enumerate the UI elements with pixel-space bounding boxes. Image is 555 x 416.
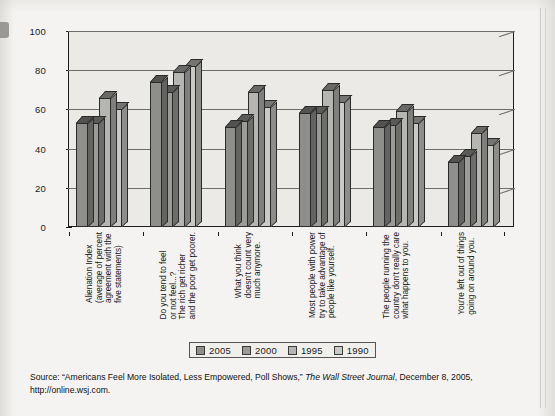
bar-front-face bbox=[299, 113, 311, 227]
bar-side-face bbox=[494, 139, 500, 227]
x-axis-label-line: what happens to you. bbox=[402, 232, 412, 319]
x-axis-label-line: What you think bbox=[234, 232, 244, 298]
bar bbox=[225, 127, 237, 227]
bar-side-face bbox=[459, 157, 465, 227]
bar-group bbox=[299, 31, 345, 227]
bar-side-face bbox=[322, 108, 328, 227]
bar-side-face bbox=[185, 67, 191, 227]
x-axis-tick bbox=[292, 232, 293, 236]
source-publication: The Wall Street Journal bbox=[305, 372, 395, 382]
bar-front-face bbox=[225, 127, 237, 227]
source-url: http://online.wsj.com. bbox=[30, 385, 110, 395]
x-axis-label-line: Alienation Index bbox=[85, 232, 95, 303]
bar-group bbox=[448, 31, 494, 227]
x-axis-label-line: five statements) bbox=[114, 232, 124, 303]
x-axis-category-label: The people running thecountry don't real… bbox=[382, 232, 411, 319]
chart-legend: 2005200019951990 bbox=[189, 342, 376, 358]
y-axis-tick-label: 0 bbox=[41, 222, 46, 233]
legend-swatch bbox=[196, 346, 205, 355]
y-axis-tick-label: 100 bbox=[30, 26, 46, 37]
page-right-rule bbox=[540, 8, 541, 408]
bar-side-face bbox=[271, 102, 277, 227]
bar-side-face bbox=[196, 61, 202, 227]
page-edge-mark bbox=[0, 22, 9, 38]
x-axis-label-line: (average of percent bbox=[95, 232, 105, 303]
bar-group bbox=[150, 31, 196, 227]
x-axis-label-line: Most people with power bbox=[308, 232, 318, 318]
bar-side-face bbox=[173, 86, 179, 227]
legend-swatch bbox=[242, 346, 251, 355]
plot-area bbox=[68, 31, 514, 227]
x-axis-category-label: Alienation Index(average of percentagree… bbox=[85, 232, 123, 303]
x-axis-tick bbox=[366, 232, 367, 236]
bar-group bbox=[76, 31, 122, 227]
scanned-page: 020406080100 Alienation Index(average of… bbox=[0, 0, 555, 416]
x-axis-tick bbox=[69, 232, 70, 236]
source-suffix: , December 8, 2005, bbox=[395, 372, 473, 382]
y-axis-tick-label: 20 bbox=[35, 182, 46, 193]
x-axis-category-label: Do you tend to feelor not feel...?The ri… bbox=[159, 232, 197, 319]
bar-side-face bbox=[482, 128, 488, 227]
bar-front-face bbox=[373, 127, 385, 227]
x-axis-category-label: What you thinkdoesn't count verymuch any… bbox=[234, 232, 263, 298]
legend-item: 2000 bbox=[242, 345, 277, 356]
legend-label: 1995 bbox=[301, 345, 323, 356]
bar-side-face bbox=[248, 116, 254, 227]
bar bbox=[448, 162, 460, 227]
x-axis-tick bbox=[143, 232, 144, 236]
x-axis-label-line: agreement with the bbox=[104, 232, 114, 303]
x-axis-label-line: The rich get richer bbox=[179, 232, 189, 319]
bar bbox=[373, 127, 385, 227]
x-axis-label-line: much anymore. bbox=[253, 232, 263, 298]
x-axis-tick bbox=[504, 232, 505, 236]
bar-side-face bbox=[396, 120, 402, 227]
bar-front-face bbox=[76, 123, 88, 227]
bar bbox=[299, 113, 311, 227]
bar-side-face bbox=[236, 122, 242, 227]
bar-side-face bbox=[385, 122, 391, 227]
bar-side-face bbox=[111, 92, 117, 227]
x-axis-label-line: Do you tend to feel bbox=[159, 232, 169, 319]
y-axis-tick-label: 60 bbox=[35, 104, 46, 115]
bar-side-face bbox=[311, 108, 317, 227]
y-axis-tick bbox=[66, 227, 72, 228]
bar-side-face bbox=[471, 151, 477, 227]
bar-side-face bbox=[162, 77, 168, 227]
x-axis-category-label: Most people with powertry to take advant… bbox=[308, 232, 337, 318]
x-axis-label-line: going on around you. bbox=[466, 232, 476, 315]
source-prefix: Source: “Americans Feel More Isolated, L… bbox=[30, 372, 305, 382]
legend-label: 1990 bbox=[347, 345, 369, 356]
bar-front-face bbox=[448, 162, 460, 227]
x-axis-tick bbox=[441, 232, 442, 236]
legend-swatch bbox=[288, 346, 297, 355]
bar-side-face bbox=[259, 86, 265, 227]
x-axis-label-line: or not feel...? bbox=[169, 232, 179, 319]
y-axis-tick-label: 40 bbox=[35, 143, 46, 154]
bar-front-face bbox=[150, 82, 162, 227]
x-axis-label-line: The people running the bbox=[382, 232, 392, 319]
bar-side-face bbox=[88, 118, 94, 227]
bar-side-face bbox=[122, 104, 128, 227]
x-axis-label-line: You're left out of things bbox=[457, 232, 467, 315]
legend-item: 1990 bbox=[334, 345, 369, 356]
legend-item: 2005 bbox=[196, 345, 231, 356]
bar bbox=[150, 82, 162, 227]
y-axis-tick-label: 80 bbox=[35, 65, 46, 76]
bar-series-container bbox=[68, 31, 514, 227]
bar-group bbox=[373, 31, 419, 227]
legend-swatch bbox=[334, 346, 343, 355]
x-axis-label-line: country don't really care bbox=[392, 232, 402, 319]
x-axis-label-line: and the poor get poorer. bbox=[188, 232, 198, 319]
bar-group bbox=[225, 31, 271, 227]
legend-item: 1995 bbox=[288, 345, 323, 356]
x-axis-label-line: people like yourself. bbox=[327, 232, 337, 318]
x-axis-category-label: You're left out of thingsgoing on around… bbox=[457, 232, 476, 315]
bar-side-face bbox=[99, 118, 105, 227]
y-axis: 020406080100 bbox=[50, 24, 70, 234]
legend-label: 2005 bbox=[209, 345, 231, 356]
bar-side-face bbox=[345, 96, 351, 227]
x-axis-category-labels: Alienation Index(average of percentagree… bbox=[68, 232, 514, 344]
bar-side-face bbox=[334, 84, 340, 227]
legend-label: 2000 bbox=[255, 345, 277, 356]
bar bbox=[76, 123, 88, 227]
